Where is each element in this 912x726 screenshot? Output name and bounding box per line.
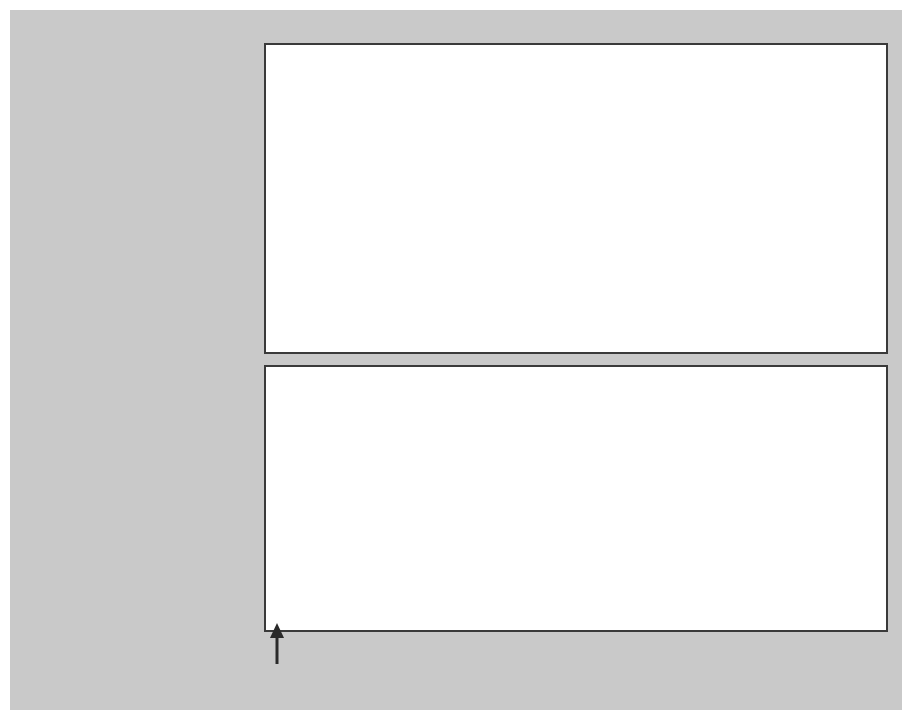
operation-arrow-icon [265, 622, 305, 666]
body-weight-plot-area [266, 45, 886, 352]
chart-body-weight [264, 43, 888, 354]
chart-food-intake [264, 365, 888, 632]
food-intake-plot-area [266, 367, 886, 630]
figure-panel [10, 10, 902, 710]
